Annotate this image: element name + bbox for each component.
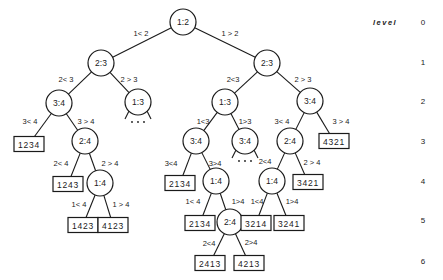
edge-label: 2<4 <box>259 157 272 166</box>
node-label: 3:4 <box>304 96 316 106</box>
edge-label: 1< 4 <box>186 197 201 206</box>
comparison-node: 1:3 <box>125 89 151 115</box>
node-label: 2:4 <box>79 136 91 146</box>
comparison-node: 2:3 <box>88 50 114 76</box>
edge-label: 2< 4 <box>54 159 69 168</box>
node-label: 1:4 <box>94 178 106 188</box>
tree-edge <box>277 193 286 215</box>
edge-label: 1 > 4 <box>113 200 130 209</box>
level-axis-title: level <box>373 18 397 27</box>
permutation-leaf: 4213 <box>234 256 264 271</box>
leaf-label: 2413 <box>199 259 221 269</box>
tree-edge <box>220 193 226 209</box>
permutation-leaf: 2413 <box>195 256 225 271</box>
level-number: 3 <box>421 137 426 146</box>
comparison-node: 1:4 <box>203 168 229 194</box>
tree-edge <box>104 195 111 217</box>
node-label: 2:4 <box>284 136 296 146</box>
edge-label: 3< 4 <box>23 117 38 126</box>
leaf-label: 4213 <box>238 259 260 269</box>
edge-label: 2<3 <box>227 75 240 84</box>
leaf-label: 1243 <box>57 180 79 190</box>
edge-label: 1< 2 <box>134 29 149 38</box>
tree-edge <box>203 193 212 215</box>
edge-label: 1>4 <box>232 197 245 206</box>
node-label: 3:4 <box>190 136 202 146</box>
edge-label: 2 > 4 <box>102 159 119 168</box>
level-number: 5 <box>421 216 426 225</box>
comparison-node: 3:4 <box>183 128 209 154</box>
edge-label: 2>4 <box>245 238 258 247</box>
permutation-leaf: 4321 <box>319 134 349 149</box>
leaf-label: 1234 <box>18 140 40 150</box>
tree-edge <box>296 113 304 130</box>
permutation-leaf: 1423 <box>68 218 98 233</box>
level-number: 4 <box>421 177 426 186</box>
comparison-node: 2:4 <box>277 128 303 154</box>
leaf-label: 1423 <box>72 221 94 231</box>
tree-edge <box>86 195 95 217</box>
comparison-node: 1:2 <box>170 9 196 35</box>
tree-edge <box>277 153 284 169</box>
leaf-label: 3214 <box>245 219 267 229</box>
leaf-label: 4321 <box>323 137 345 147</box>
node-label: 1:3 <box>219 97 231 107</box>
permutation-leaf: 4123 <box>98 218 128 233</box>
node-label: 1:3 <box>132 97 144 107</box>
edge-label: 3>4 <box>209 159 222 168</box>
edge-label: 3 > 4 <box>78 117 95 126</box>
tree-canvas: 1< 21 > 22< 32 > 32<32 > 33< 43 > 41<31>… <box>0 0 443 280</box>
comparison-node: 1:3 <box>212 89 238 115</box>
leaf-label: 2134 <box>189 219 211 229</box>
edge-label: 3< 4 <box>275 117 290 126</box>
level-number: 1 <box>421 58 426 67</box>
node-label: 2:3 <box>261 58 273 68</box>
node-label: 2:4 <box>224 217 236 227</box>
comparison-node: 3:4 <box>297 88 323 114</box>
permutation-leaf: 1234 <box>14 137 44 152</box>
tree-edge <box>66 114 77 131</box>
permutation-leaf: 3214 <box>241 216 271 231</box>
edge-label: 2 > 3 <box>121 75 138 84</box>
comparison-node: 2:4 <box>217 209 243 235</box>
edge-label: 1 > 2 <box>222 29 239 38</box>
node-label: 3:4 <box>239 136 251 146</box>
edge-label: 3<4 <box>165 159 178 168</box>
comparison-node: 3:4 <box>232 128 258 154</box>
node-label: 1:2 <box>177 17 189 27</box>
tree-edge <box>183 153 192 175</box>
comparison-node: 1:4 <box>87 170 113 196</box>
permutation-leaf: 2134 <box>185 216 215 231</box>
edge-label: 2 > 3 <box>295 75 312 84</box>
level-number: 2 <box>421 97 426 106</box>
level-axis: level0123456 <box>373 18 426 266</box>
comparison-node: 2:4 <box>72 128 98 154</box>
decision-tree-diagram: 1< 21 > 22< 32 > 32<32 > 33< 43 > 41<31>… <box>0 0 443 280</box>
comparison-node: 1:4 <box>259 168 285 194</box>
edge-label: 1>4 <box>286 197 299 206</box>
leaf-label: 2134 <box>169 179 191 189</box>
edge-label: 2<4 <box>203 239 216 248</box>
edge-label: 1< 4 <box>72 200 87 209</box>
tree-edge <box>71 153 80 176</box>
node-label: 1:4 <box>210 176 222 186</box>
node-label: 3:4 <box>53 98 65 108</box>
tree-edge <box>317 112 330 133</box>
permutation-leaf: 3421 <box>293 175 323 190</box>
edge-label: 2 > 4 <box>304 158 321 167</box>
edge-label: 1<3 <box>197 117 210 126</box>
comparison-node: 3:4 <box>46 90 72 116</box>
node-label: 1:4 <box>266 176 278 186</box>
edge-label: 1<4 <box>251 197 264 206</box>
comparison-node: 2:3 <box>254 50 280 76</box>
leaf-label: 3421 <box>297 178 319 188</box>
edge-label: 2< 3 <box>59 75 74 84</box>
edge-label: 3 > 4 <box>333 117 350 126</box>
tree-edge <box>89 153 95 171</box>
leaf-label: 3241 <box>278 219 300 229</box>
permutation-leaf: 1243 <box>53 177 83 192</box>
leaf-label: 4123 <box>102 221 124 231</box>
permutation-leaf: 2134 <box>165 176 195 191</box>
node-label: 2:3 <box>95 58 107 68</box>
level-number: 6 <box>421 257 426 266</box>
